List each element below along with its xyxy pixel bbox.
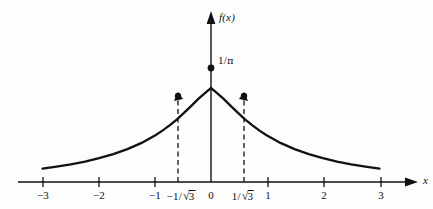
x-tick-label-three: 3 <box>378 190 384 201</box>
x-axis-label: x <box>423 175 428 186</box>
x-tick-label-minus2: −2 <box>93 190 105 201</box>
x-tick-label-one-over-sqrt3: 1/√3 <box>232 190 254 202</box>
x-axis-arrowhead <box>405 178 418 187</box>
sqrt-radical-right: √3 <box>241 190 255 202</box>
x-tick-label-two: 2 <box>321 190 327 201</box>
cauchy-plot-svg <box>0 0 433 209</box>
x-axis <box>18 178 418 187</box>
sqrt-radical-left: √3 <box>182 190 196 202</box>
peak-label-denominator: π <box>227 55 234 66</box>
one-over-prefix: 1/ <box>232 190 241 202</box>
y-axis <box>207 11 216 182</box>
x-tick-label-minus1: −1 <box>149 190 161 201</box>
peak-dot <box>208 65 215 72</box>
radicand-left: 3 <box>189 190 196 202</box>
radicand-right: 3 <box>248 190 255 202</box>
figure-canvas: f(x) x 1/π −3 −2 −1 0 1 2 3 −1/√3 1/√3 <box>0 0 433 209</box>
y-axis-arrowhead <box>207 11 216 24</box>
x-tick-label-one: 1 <box>265 190 271 201</box>
y-axis-label: f(x) <box>219 12 235 23</box>
x-tick-label-minus-one-over-sqrt3: −1/√3 <box>167 190 196 202</box>
minus-one-over-prefix: −1/ <box>167 190 182 202</box>
x-tick-label-minus3: −3 <box>37 190 49 201</box>
x-tick-label-zero: 0 <box>208 190 214 201</box>
peak-value-label: 1/π <box>218 55 234 66</box>
